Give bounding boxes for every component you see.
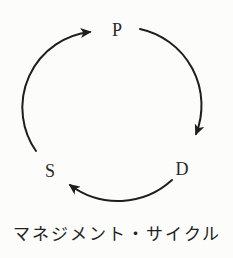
node-plan-label: P [112,20,122,40]
arrow-d-to-s [70,180,172,201]
management-cycle-figure: P D S マネジメント・サイクル [0,0,233,258]
figure-caption: マネジメント・サイクル [0,220,233,245]
node-see-label: S [45,161,55,181]
arrow-s-to-p [22,32,90,151]
arrow-p-to-d [140,29,201,134]
node-do-label: D [176,159,189,179]
